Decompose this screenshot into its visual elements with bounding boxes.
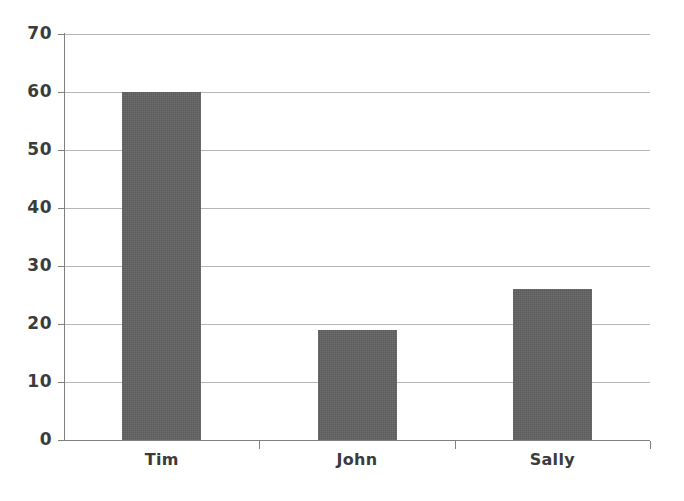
y-axis-tick bbox=[58, 266, 65, 267]
y-axis-tick-label: 70 bbox=[6, 25, 52, 42]
x-axis-tick bbox=[259, 441, 260, 449]
y-axis-tick-label: 20 bbox=[6, 315, 52, 332]
x-axis-tick bbox=[455, 441, 456, 449]
y-axis-tick-label: 60 bbox=[6, 83, 52, 100]
y-axis-tick bbox=[58, 150, 65, 151]
y-axis-tick bbox=[58, 34, 65, 35]
y-axis-line bbox=[64, 33, 65, 441]
y-axis-tick-label: 50 bbox=[6, 141, 52, 158]
bar bbox=[318, 330, 397, 440]
y-axis-tick-label: 30 bbox=[6, 257, 52, 274]
x-axis-line bbox=[64, 440, 650, 441]
y-axis-tick-label: 0 bbox=[6, 431, 52, 448]
x-axis-tick-label: Sally bbox=[455, 452, 650, 468]
x-axis-tick-label: Tim bbox=[64, 452, 259, 468]
y-axis-tick bbox=[58, 324, 65, 325]
bar-chart: 010203040506070 TimJohnSally bbox=[0, 0, 684, 501]
y-axis-tick bbox=[58, 208, 65, 209]
bar bbox=[513, 289, 592, 440]
y-axis-tick-label: 10 bbox=[6, 373, 52, 390]
x-axis-tick bbox=[650, 441, 651, 449]
y-axis-tick-label: 40 bbox=[6, 199, 52, 216]
x-axis-tick-label: John bbox=[259, 452, 454, 468]
y-axis-tick bbox=[58, 440, 65, 441]
y-axis-tick bbox=[58, 92, 65, 93]
gridline bbox=[64, 34, 650, 35]
y-axis-tick bbox=[58, 382, 65, 383]
bar bbox=[122, 92, 201, 440]
y-axis-labels: 010203040506070 bbox=[0, 0, 52, 501]
